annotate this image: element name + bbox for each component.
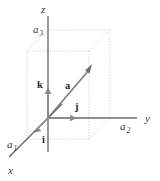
- box-edge-top-right-front: [89, 30, 110, 51]
- vector-j-arrowhead: [70, 115, 77, 122]
- vector-j-label: j: [74, 101, 79, 112]
- box-edge-bottom-right-front: [89, 118, 110, 139]
- vector-i-label: i: [42, 134, 45, 145]
- vector-a-label: a: [65, 80, 71, 91]
- a2-subscript: 2: [127, 126, 131, 135]
- a3-tick-label: a 3: [33, 23, 44, 38]
- a3-letter: a: [33, 23, 39, 35]
- a1-letter: a: [7, 138, 13, 150]
- vector-k-label: k: [37, 79, 43, 90]
- y-axis-label: y: [144, 112, 150, 124]
- vector-i-shaft: [38, 118, 49, 129]
- vector-diagram-figure: z y x a 3 a 2 a 1 k a j i: [0, 0, 160, 181]
- vector-k: [45, 87, 52, 118]
- vector-a-shaft: [48, 70, 89, 118]
- vector-k-arrowhead: [45, 87, 52, 94]
- a1-tick-label: a 1: [7, 138, 17, 153]
- vector-j: [48, 115, 77, 122]
- z-axis-label: z: [40, 3, 46, 15]
- vector-a: [48, 64, 92, 118]
- a3-subscript: 3: [39, 29, 44, 38]
- vector-a-arrowhead: [85, 64, 92, 74]
- a1-subscript: 1: [14, 144, 18, 153]
- vector-diagram-canvas: z y x a 3 a 2 a 1 k a j i: [0, 0, 160, 181]
- a2-tick-label: a 2: [120, 120, 131, 135]
- a2-letter: a: [120, 120, 126, 132]
- x-axis-label: x: [7, 164, 13, 176]
